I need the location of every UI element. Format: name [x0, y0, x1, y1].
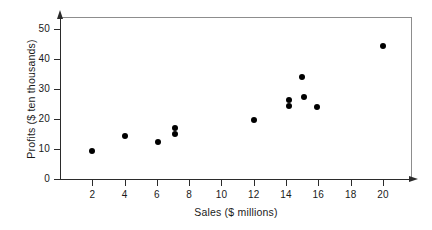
scatter-plot-figure: 01020304050 2468101214161820 Sales ($ mi… — [0, 0, 432, 230]
x-axis-tick-label: 18 — [339, 188, 363, 201]
y-axis-tick — [54, 119, 60, 120]
x-axis-tick-label: 12 — [242, 188, 266, 201]
x-axis-tick-label: 14 — [274, 188, 298, 201]
x-axis-tick-label: 2 — [80, 188, 104, 201]
y-axis-arrowhead-icon — [57, 10, 63, 19]
scatter-data-point — [89, 148, 95, 154]
x-axis-tick — [351, 180, 352, 186]
y-axis-tick — [54, 59, 60, 60]
x-axis-tick-label: 8 — [177, 188, 201, 201]
x-axis-tick — [189, 180, 190, 186]
scatter-data-point — [301, 94, 307, 100]
x-axis-tick-label: 16 — [306, 188, 330, 201]
x-axis-line — [60, 179, 412, 180]
x-axis-tick — [383, 180, 384, 186]
scatter-data-point — [251, 117, 257, 123]
x-axis-tick — [286, 180, 287, 186]
x-axis-title: Sales ($ millions) — [60, 206, 412, 218]
y-axis-tick — [54, 149, 60, 150]
scatter-data-point — [172, 131, 178, 137]
scatter-data-point — [314, 104, 320, 110]
x-axis-tick — [92, 180, 93, 186]
y-axis-title: Profits ($ ten thousands) — [25, 6, 37, 192]
x-axis-tick-label: 6 — [145, 188, 169, 201]
x-axis-tick — [318, 180, 319, 186]
x-axis-tick-label: 10 — [209, 188, 233, 201]
scatter-data-point — [122, 133, 128, 139]
x-axis-tick — [254, 180, 255, 186]
x-axis-tick-label: 4 — [113, 188, 137, 201]
x-axis-tick — [125, 180, 126, 186]
y-axis-tick — [54, 89, 60, 90]
y-axis-tick — [54, 29, 60, 30]
plot-area-frame — [60, 17, 412, 180]
y-axis-tick — [54, 179, 60, 180]
x-axis-tick-label: 20 — [371, 188, 395, 201]
y-axis-line — [60, 17, 61, 180]
scatter-data-point — [286, 103, 292, 109]
scatter-data-point — [380, 43, 386, 49]
x-axis-tick — [157, 180, 158, 186]
x-axis-arrowhead-icon — [409, 176, 418, 182]
x-axis-tick — [221, 180, 222, 186]
